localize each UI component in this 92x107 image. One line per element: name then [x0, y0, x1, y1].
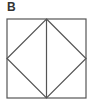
square-diamond-diagram	[0, 0, 92, 107]
